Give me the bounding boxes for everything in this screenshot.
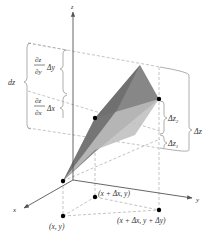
- point-surface-corner: [157, 97, 161, 101]
- dz-total-bracket: [160, 67, 192, 151]
- dz-bracket: [24, 43, 31, 129]
- y-axis: [73, 180, 192, 198]
- point-xdx-y: [93, 195, 97, 199]
- dz2-bracket: [160, 101, 167, 134]
- label-xdx-y: (x + Δx, y): [98, 189, 130, 198]
- dz2-label: Δz2: [167, 114, 179, 124]
- z-axis-label: z: [70, 4, 74, 10]
- svg-text:∂z: ∂z: [35, 56, 41, 64]
- dz-label: dz: [8, 78, 16, 87]
- left-brackets: [24, 43, 67, 129]
- svg-text:∂y: ∂y: [35, 68, 42, 76]
- partial-y-term: ∂z ∂y Δy: [34, 56, 55, 76]
- svg-text:Δy: Δy: [46, 63, 55, 72]
- dzdy-bracket: [60, 50, 67, 94]
- point-mid: [93, 116, 97, 120]
- label-xy: (x, y): [49, 222, 65, 231]
- dz1-bracket: [160, 135, 167, 148]
- point-xy: [61, 214, 65, 218]
- label-xdx-ydy: (x + Δx, y + Δy): [117, 216, 166, 225]
- dz1-label: Δz1: [167, 139, 178, 149]
- dz-total-label: Δz: [193, 127, 203, 136]
- svg-text:∂z: ∂z: [35, 97, 41, 105]
- total-differential-diagram: z x y dz ∂z ∂y Δy ∂z ∂x Δx Δz2 Δz1 Δz (x…: [0, 0, 218, 244]
- dzdx-bracket: [60, 95, 67, 118]
- x-axis-label: x: [12, 206, 17, 214]
- svg-text:∂x: ∂x: [35, 109, 42, 117]
- x-axis: [24, 180, 73, 208]
- point-xdx-ydy: [157, 208, 161, 212]
- partial-x-term: ∂z ∂x Δx: [34, 97, 55, 117]
- svg-text:Δx: Δx: [46, 104, 55, 113]
- point-surface-origin: [61, 179, 65, 183]
- y-axis-label: y: [195, 196, 200, 204]
- right-brackets: [160, 67, 192, 151]
